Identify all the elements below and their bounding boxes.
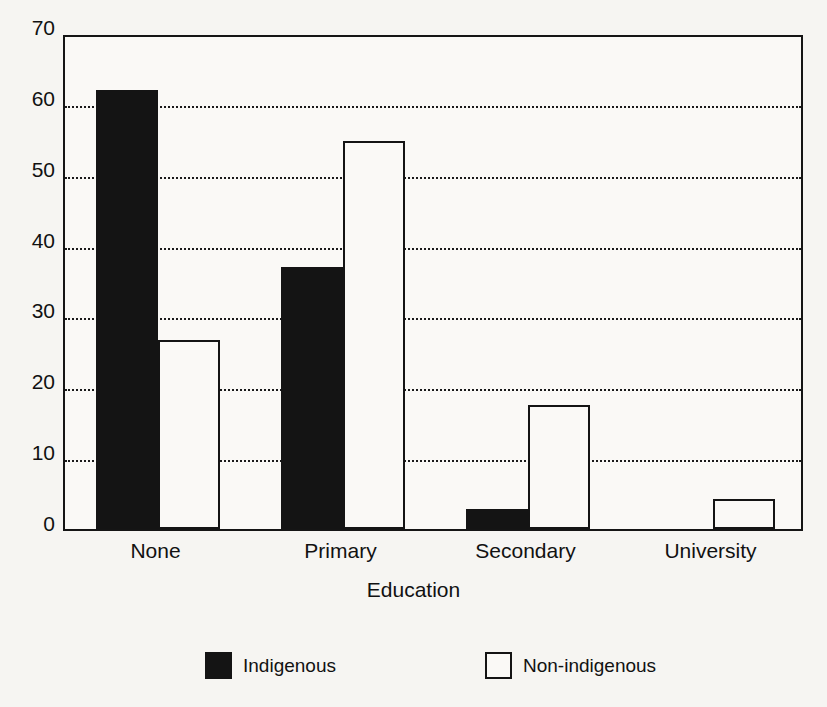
y-tick-label: 10 (3, 442, 55, 463)
legend-label: Indigenous (243, 656, 336, 675)
y-tick-label: 70 (3, 17, 55, 38)
chart-legend: Indigenous Non-indigenous (0, 652, 827, 692)
legend-item-indigenous: Indigenous (205, 652, 336, 679)
y-tick-label: 0 (3, 513, 55, 534)
y-tick-label: 60 (3, 88, 55, 109)
bar-chart: 010203040506070 NonePrimarySecondaryUniv… (0, 0, 827, 707)
x-tick-label-primary: Primary (248, 539, 433, 563)
bar-primary-non-indigenous (343, 141, 405, 529)
x-tick-label-university: University (618, 539, 803, 563)
bar-primary-indigenous (281, 267, 343, 529)
bar-university-non-indigenous (713, 499, 775, 529)
gridline (65, 177, 801, 179)
legend-swatch-hollow-square-icon (485, 652, 512, 679)
legend-swatch-filled-square-icon (205, 652, 232, 679)
y-tick-label: 20 (3, 371, 55, 392)
bar-none-indigenous (96, 90, 158, 529)
gridline (65, 318, 801, 320)
y-tick-label: 50 (3, 159, 55, 180)
y-tick-label: 30 (3, 300, 55, 321)
legend-label: Non-indigenous (523, 656, 656, 675)
plot-area (63, 35, 803, 531)
x-tick-label-secondary: Secondary (433, 539, 618, 563)
bar-secondary-non-indigenous (528, 405, 590, 529)
bar-none-non-indigenous (158, 340, 220, 529)
gridline (65, 248, 801, 250)
x-tick-label-none: None (63, 539, 248, 563)
x-axis-title: Education (0, 578, 827, 602)
legend-item-non-indigenous: Non-indigenous (485, 652, 656, 679)
gridline (65, 106, 801, 108)
bar-secondary-indigenous (466, 509, 528, 529)
y-tick-label: 40 (3, 230, 55, 251)
